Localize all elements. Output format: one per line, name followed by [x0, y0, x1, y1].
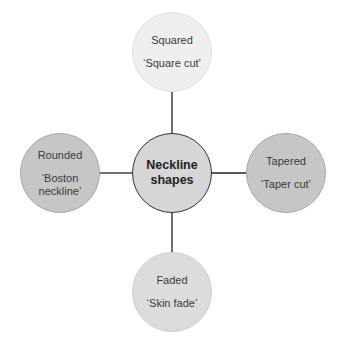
node-title: Rounded — [38, 149, 83, 162]
center-title-line1: Neckline — [146, 158, 197, 173]
node-title: Faded — [156, 274, 187, 287]
node-subtitle-cont: neckline’ — [39, 185, 82, 198]
node-tapered: Tapered ‘Taper cut’ — [246, 133, 326, 213]
node-subtitle: ‘Boston — [42, 172, 79, 185]
node-faded: Faded ‘Skin fade’ — [132, 252, 212, 332]
node-subtitle: ‘Skin fade’ — [147, 297, 198, 310]
node-rounded: Rounded ‘Boston neckline’ — [20, 133, 100, 213]
node-title: Squared — [151, 34, 193, 47]
center-node: Neckline shapes — [132, 133, 212, 213]
node-subtitle: ‘Square cut’ — [143, 57, 201, 70]
node-squared: Squared ‘Square cut’ — [132, 12, 212, 92]
center-title-line2: shapes — [150, 173, 193, 188]
node-subtitle: ‘Taper cut’ — [261, 178, 311, 191]
node-title: Tapered — [266, 155, 306, 168]
